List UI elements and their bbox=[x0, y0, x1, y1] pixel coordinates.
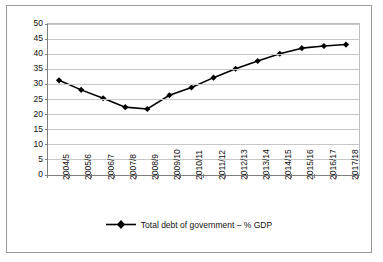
x-axis-label: 2017/18 bbox=[351, 149, 360, 180]
x-axis-label: 2006/7 bbox=[107, 154, 116, 180]
gridline bbox=[48, 129, 359, 130]
gridline bbox=[48, 84, 359, 85]
data-point-marker bbox=[321, 43, 327, 49]
x-axis-label: 2015/16 bbox=[306, 149, 315, 180]
y-axis-label: 35 bbox=[9, 64, 43, 73]
y-axis-label: 20 bbox=[9, 109, 43, 118]
y-axis-label: 40 bbox=[9, 49, 43, 58]
x-axis-label: 2004/5 bbox=[62, 154, 71, 180]
x-axis-label: 2010/11 bbox=[195, 150, 204, 180]
legend-marker-diamond-icon bbox=[106, 219, 136, 230]
gridline bbox=[48, 99, 359, 100]
x-axis-label: 2014/15 bbox=[284, 149, 293, 180]
data-point-marker bbox=[343, 42, 349, 48]
x-axis-tick bbox=[47, 174, 48, 178]
y-axis-tick bbox=[45, 69, 48, 70]
y-axis-tick bbox=[45, 84, 48, 85]
gridline bbox=[48, 24, 359, 25]
x-axis-label: 2007/8 bbox=[129, 154, 138, 180]
y-axis-label: 10 bbox=[9, 140, 43, 149]
chart-frame: 05101520253035404550 2004/52005/62006/72… bbox=[6, 5, 372, 253]
x-axis-label: 2016/17 bbox=[329, 149, 338, 180]
x-axis-label: 2013/14 bbox=[262, 149, 271, 180]
x-axis-label: 2012/13 bbox=[240, 149, 249, 180]
x-axis-label: 2008/9 bbox=[151, 154, 160, 180]
gridline bbox=[48, 114, 359, 115]
gridline bbox=[48, 39, 359, 40]
gridline bbox=[48, 144, 359, 145]
y-axis-label: 15 bbox=[9, 124, 43, 133]
y-axis-tick bbox=[45, 129, 48, 130]
y-axis-tick bbox=[45, 39, 48, 40]
y-axis-label: 0 bbox=[9, 170, 43, 179]
y-axis-tick bbox=[45, 114, 48, 115]
chart-legend: Total debt of government – % GDP bbox=[7, 219, 371, 230]
y-axis-label: 5 bbox=[9, 155, 43, 164]
data-point-marker bbox=[56, 77, 62, 83]
y-axis-tick bbox=[45, 24, 48, 25]
x-axis-label: 2005/6 bbox=[84, 154, 93, 180]
y-axis-label: 50 bbox=[9, 19, 43, 28]
gridline bbox=[48, 54, 359, 55]
y-axis-label: 45 bbox=[9, 34, 43, 43]
data-point-marker bbox=[210, 75, 216, 81]
y-axis-tick bbox=[45, 144, 48, 145]
data-point-marker bbox=[122, 104, 128, 110]
gridline bbox=[48, 69, 359, 70]
data-point-marker bbox=[299, 45, 305, 51]
x-axis-label: 2009/10 bbox=[173, 149, 182, 180]
y-axis-label: 30 bbox=[9, 79, 43, 88]
y-axis-tick bbox=[45, 99, 48, 100]
y-axis-label: 25 bbox=[9, 94, 43, 103]
y-axis-tick bbox=[45, 54, 48, 55]
data-point-marker bbox=[78, 87, 84, 93]
x-axis-label: 2011/12 bbox=[218, 150, 227, 180]
legend-label-total-debt: Total debt of government – % GDP bbox=[141, 220, 272, 230]
data-point-marker bbox=[188, 84, 194, 90]
data-point-marker bbox=[255, 58, 261, 64]
y-axis-tick bbox=[45, 159, 48, 160]
